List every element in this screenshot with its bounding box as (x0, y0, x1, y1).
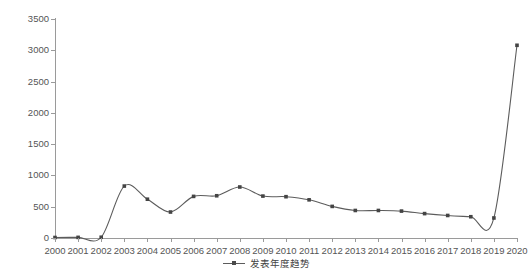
x-axis-tick-mark (448, 238, 449, 242)
x-axis-tick-mark (286, 238, 287, 242)
x-axis-tick-mark (217, 238, 218, 242)
data-point-marker (307, 198, 311, 202)
legend-label-publication-trend: 发表年度趋势 (250, 256, 310, 270)
data-point-marker (146, 197, 150, 201)
x-axis-tick-mark (425, 238, 426, 242)
y-axis-tick-label: 2500 (28, 76, 49, 87)
y-axis-tick-mark (51, 19, 55, 20)
data-point-marker (192, 195, 196, 199)
data-point-marker (169, 210, 173, 214)
data-point-marker (377, 209, 381, 213)
x-axis-tick-mark (494, 238, 495, 242)
data-point-marker (284, 195, 288, 199)
y-axis-tick-mark (51, 207, 55, 208)
x-axis-tick-mark (355, 238, 356, 242)
x-axis-tick-mark (171, 238, 172, 242)
x-axis-tick-mark (147, 238, 148, 242)
data-point-marker (123, 184, 127, 188)
publication-trend-chart: 发文量（篇） 050010001500200025003000350020002… (0, 0, 532, 274)
y-axis-tick-label: 1500 (28, 138, 49, 149)
x-axis-tick-mark (402, 238, 403, 242)
y-axis-tick-label: 1000 (28, 169, 49, 180)
y-axis-tick-label: 2000 (28, 107, 49, 118)
y-axis-tick-label: 0 (44, 232, 49, 243)
y-axis-tick-mark (51, 175, 55, 176)
y-axis-tick-label: 500 (33, 201, 49, 212)
y-axis-tick-mark (51, 82, 55, 83)
chart-legend: 发表年度趋势 (0, 256, 532, 270)
data-point-marker (330, 205, 334, 209)
data-point-marker (238, 185, 242, 189)
data-point-marker (469, 215, 473, 219)
data-point-marker (492, 216, 496, 220)
x-axis-tick-label: 2020 (501, 245, 532, 256)
x-axis-tick-mark (194, 238, 195, 242)
x-axis-tick-mark (240, 238, 241, 242)
y-axis-tick-label: 3000 (28, 44, 49, 55)
series-line-publication-trend (55, 19, 517, 238)
x-axis-tick-mark (309, 238, 310, 242)
data-point-marker (215, 194, 219, 198)
y-axis-tick-mark (51, 113, 55, 114)
x-axis-tick-mark (124, 238, 125, 242)
y-axis-tick-mark (51, 50, 55, 51)
data-point-marker (261, 194, 265, 198)
legend-line-marker-icon (223, 258, 245, 268)
x-axis-tick-mark (471, 238, 472, 242)
x-axis-tick-mark (101, 238, 102, 242)
y-axis-tick-mark (51, 144, 55, 145)
x-axis-tick-mark (517, 238, 518, 242)
x-axis-tick-mark (378, 238, 379, 242)
data-point-marker (515, 43, 519, 47)
data-point-marker (400, 209, 404, 213)
x-axis-tick-mark (332, 238, 333, 242)
data-point-marker (446, 214, 450, 218)
x-axis-tick-mark (78, 238, 79, 242)
x-axis-tick-mark (55, 238, 56, 242)
data-point-marker (354, 209, 358, 213)
data-point-marker (423, 212, 427, 216)
series-path (55, 45, 517, 241)
x-axis-tick-mark (263, 238, 264, 242)
plot-area: 0500100015002000250030003500200020012002… (55, 19, 517, 238)
y-axis-tick-label: 3500 (28, 13, 49, 24)
